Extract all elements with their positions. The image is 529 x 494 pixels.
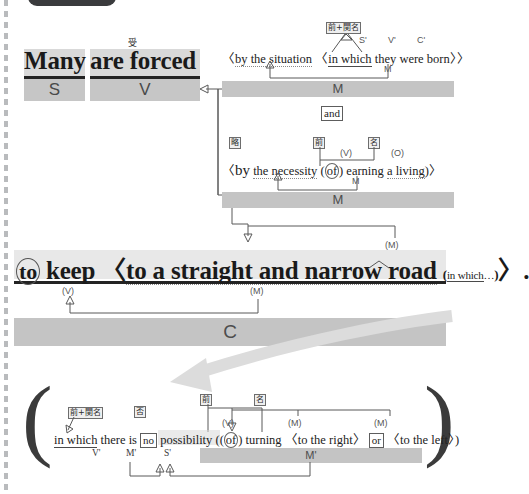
connector-and: and <box>321 106 343 121</box>
mod1-text-a: by the situation <box>235 52 312 67</box>
inner-close-1: 〉 <box>450 52 457 66</box>
expansion-role-v: V' <box>92 448 101 458</box>
mod1-relative: in which <box>328 52 371 67</box>
verb-role-band: V <box>90 79 200 101</box>
expansion-mod1-role: (M) <box>288 418 302 428</box>
expansion-possibility: possibility <box>160 433 212 447</box>
expansion-close-inner: ) <box>238 433 242 447</box>
mod1-role-bar: M <box>222 81 454 97</box>
clause2-sentence: to keep 〈to a straight and narrow road (… <box>16 250 529 286</box>
mod2-prep: of <box>325 163 339 179</box>
expansion-turning: turning <box>246 433 282 447</box>
expansion-close-paren: ) <box>424 372 455 464</box>
expansion-of: of <box>224 432 238 448</box>
angle-open-2: 〈 <box>222 164 235 178</box>
inner-open-1: 〈 <box>315 52 328 66</box>
prep-rel-tag-1: 前+関名 <box>326 22 361 34</box>
mod2-lead: by <box>235 162 250 178</box>
notebook-spine-dashes <box>4 0 8 494</box>
top-dark-tab <box>28 0 116 6</box>
subject-text: Many <box>24 47 85 75</box>
expansion-left: to the left <box>400 433 448 447</box>
mod2-text-a: the necessity <box>253 164 317 179</box>
role-s-prime-1: S' <box>359 35 367 45</box>
expansion-there-is: there is <box>101 433 137 447</box>
clause2-to: to <box>16 258 40 285</box>
expansion-role-m-neg: M' <box>126 448 136 458</box>
expansion-angle-close-1: 〉 <box>353 433 366 447</box>
expansion-angle-close-2: 〉 <box>448 433 455 447</box>
clause2-top-mod-role: (M) <box>385 240 399 250</box>
expansion-open-paren: ( <box>22 372 53 464</box>
subject-role-band: S <box>24 79 85 101</box>
clause2-keep: keep <box>46 257 95 284</box>
expansion-sentence: in which there is no possibility ((of) t… <box>54 429 459 448</box>
expansion-rel: in which <box>54 433 97 448</box>
clause2-period: . <box>523 257 529 284</box>
expansion-right: to the right <box>298 433 353 447</box>
expansion-role-m-bar: M' <box>200 448 422 463</box>
expansion-verb-role: (V) <box>222 418 234 428</box>
clause2-angle-open: 〈 <box>101 257 126 284</box>
mod1-inner-role: M <box>384 64 392 74</box>
noun-tag-3: 名 <box>254 394 266 406</box>
inner-close-2: ) <box>339 164 343 178</box>
mod2-object: a living <box>387 164 425 179</box>
expansion-close-outer: ) <box>455 433 459 447</box>
expansion-no: no <box>140 433 157 448</box>
expansion-mod2-role: (M) <box>374 418 388 428</box>
clause2-rel: in which <box>447 269 484 282</box>
clause2-verb-role: (V) <box>62 286 74 296</box>
clause2-mod-role: (M) <box>250 286 264 296</box>
ellipsis-tag: 略 <box>229 137 241 149</box>
angle-open-1: 〈 <box>222 52 235 66</box>
angle-close-2: 〉 <box>429 164 442 178</box>
prep-rel-tag-2: 前+関名 <box>68 407 103 419</box>
modifier1-sentence: 〈by the situation 〈in which they were bo… <box>222 48 470 67</box>
role-c-prime-1: C' <box>417 35 425 45</box>
clause2-role-bar: C <box>14 318 446 346</box>
noun-tag-2: 名 <box>368 137 380 149</box>
negation-tag: 否 <box>134 406 146 418</box>
angle-close-1: 〉 <box>457 52 470 66</box>
mod2-verb-role: (V) <box>340 148 352 158</box>
role-v-prime-1: V' <box>388 35 396 45</box>
clause2-dots: … <box>484 269 495 281</box>
mod2-inner-role: M <box>352 176 360 186</box>
prep-tag-3: 前 <box>200 394 212 406</box>
expansion-role-s: S' <box>164 448 171 458</box>
mod2-object-role: (O) <box>391 148 404 158</box>
prep-tag-2: 前 <box>313 137 325 149</box>
mod2-role-bar: M <box>222 192 454 208</box>
clause2-prep-phrase: to a straight and narrow road <box>126 257 437 285</box>
inner-open-2: ( <box>320 164 324 178</box>
modifier2-sentence: 〈by the necessity (of) earning a living)… <box>222 160 442 179</box>
expansion-angle-open-1: 〈 <box>285 433 298 447</box>
expansion-or: or <box>369 433 384 448</box>
verb-text: are forced <box>90 47 200 75</box>
clause2-angle-close: 〉 <box>498 257 523 284</box>
expansion-angle-open-2: 〈 <box>387 433 400 447</box>
